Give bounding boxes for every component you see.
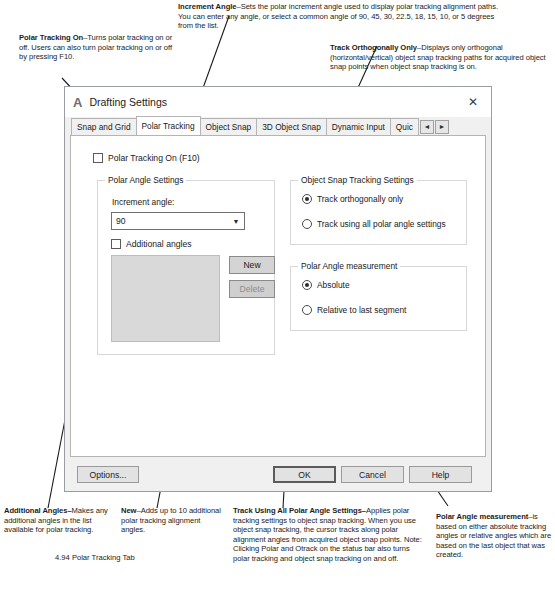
cancel-button[interactable]: Cancel bbox=[341, 466, 404, 483]
absolute-radio[interactable] bbox=[302, 280, 312, 290]
tab-object-snap[interactable]: Object Snap bbox=[200, 118, 258, 135]
annotation-polar-angle-measurement: Polar Angle measurement–is based on eith… bbox=[436, 512, 552, 560]
additional-angles-label: Additional angles bbox=[126, 239, 191, 249]
annotation-increment-angle-term: Increment Angle bbox=[178, 2, 236, 11]
drafting-settings-dialog[interactable]: A Drafting Settings ✕ Snap and Grid Pola… bbox=[64, 86, 492, 492]
dialog-titlebar[interactable]: A Drafting Settings ✕ bbox=[65, 87, 491, 117]
autocad-logo-icon: A bbox=[73, 96, 82, 109]
polar-tracking-on-label: Polar Tracking On (F10) bbox=[108, 153, 200, 163]
relative-to-last-segment-radio[interactable] bbox=[302, 305, 312, 315]
tab-scroll-left-icon[interactable]: ◄ bbox=[420, 120, 434, 134]
track-using-all-polar-angles-radio[interactable] bbox=[302, 219, 312, 229]
options-button[interactable]: Options... bbox=[77, 466, 139, 483]
delete-angle-button[interactable]: Delete bbox=[229, 280, 275, 298]
relative-to-last-segment-radio-row[interactable]: Relative to last segment bbox=[302, 305, 406, 315]
polar-angle-settings-group: Polar Angle Settings Increment angle: 90… bbox=[97, 180, 275, 355]
polar-angle-measurement-title: Polar Angle measurement bbox=[298, 261, 400, 271]
annotation-additional-angles-term: Additional Angles– bbox=[4, 506, 72, 515]
annotation-increment-angle: Increment Angle–Sets the polar increment… bbox=[178, 2, 508, 31]
annotation-polar-tracking-on: Polar Tracking On–Turns polar tracking o… bbox=[19, 33, 179, 62]
polar-angle-measurement-group: Polar Angle measurement Absolute Relativ… bbox=[290, 266, 467, 331]
help-button[interactable]: Help bbox=[409, 466, 472, 483]
annotation-new-button: New–Adds up to 10 additional polar track… bbox=[121, 506, 226, 535]
annotation-new-button-body: –Adds up to 10 additional polar tracking… bbox=[121, 506, 221, 534]
track-using-all-polar-angles-label: Track using all polar angle settings bbox=[317, 219, 446, 229]
track-using-all-polar-angles-radio-row[interactable]: Track using all polar angle settings bbox=[302, 219, 446, 229]
tab-snap-and-grid[interactable]: Snap and Grid bbox=[71, 118, 137, 135]
annotation-new-button-term: New bbox=[121, 506, 136, 515]
polar-tracking-on-checkbox[interactable] bbox=[93, 153, 103, 163]
annotation-polar-tracking-on-term: Polar Tracking On bbox=[19, 33, 83, 42]
tab-polar-tracking[interactable]: Polar Tracking bbox=[136, 116, 201, 135]
increment-angle-value: 90 bbox=[112, 216, 228, 226]
chevron-down-icon[interactable]: ▼ bbox=[228, 218, 244, 225]
increment-angle-label: Increment angle: bbox=[112, 197, 174, 207]
tab-quick-properties[interactable]: Quic bbox=[390, 118, 419, 135]
annotation-track-orthogonally-term: Track Orthogonally Only bbox=[330, 43, 417, 52]
annotation-track-orthogonally: Track Orthogonally Only–Displays only or… bbox=[330, 43, 554, 72]
figure-caption: 4.94 Polar Tracking Tab bbox=[55, 553, 135, 563]
dialog-title: Drafting Settings bbox=[89, 96, 167, 108]
new-angle-button[interactable]: New bbox=[229, 256, 275, 274]
polar-tracking-tab-page: Polar Tracking On (F10) Polar Angle Sett… bbox=[70, 135, 486, 457]
track-orthogonally-only-label: Track orthogonally only bbox=[317, 194, 403, 204]
track-orthogonally-only-radio[interactable] bbox=[302, 194, 312, 204]
close-icon[interactable]: ✕ bbox=[455, 87, 491, 117]
tab-strip[interactable]: Snap and Grid Polar Tracking Object Snap… bbox=[65, 117, 491, 135]
annotation-track-using-all: Track Using All Polar Angle Settings–App… bbox=[233, 506, 428, 564]
annotation-track-using-all-term: Track Using All Polar Angle Settings– bbox=[233, 506, 366, 515]
polar-angle-settings-title: Polar Angle Settings bbox=[105, 175, 186, 185]
tab-scroll-buttons[interactable]: ◄ ► bbox=[420, 120, 449, 134]
tab-dynamic-input[interactable]: Dynamic Input bbox=[326, 118, 391, 135]
track-orthogonally-only-radio-row[interactable]: Track orthogonally only bbox=[302, 194, 403, 204]
increment-angle-combobox[interactable]: 90 ▼ bbox=[111, 212, 245, 230]
additional-angles-checkbox-row[interactable]: Additional angles bbox=[111, 239, 191, 249]
object-snap-tracking-settings-title: Object Snap Tracking Settings bbox=[298, 175, 417, 185]
absolute-radio-row[interactable]: Absolute bbox=[302, 280, 350, 290]
ok-button[interactable]: OK bbox=[273, 466, 336, 483]
absolute-label: Absolute bbox=[317, 280, 350, 290]
annotation-polar-angle-measurement-term: Polar Angle measurement bbox=[436, 512, 528, 521]
object-snap-tracking-settings-group: Object Snap Tracking Settings Track orth… bbox=[290, 180, 467, 245]
relative-to-last-segment-label: Relative to last segment bbox=[317, 305, 406, 315]
tab-scroll-right-icon[interactable]: ► bbox=[435, 120, 449, 134]
additional-angles-checkbox[interactable] bbox=[111, 239, 121, 249]
dialog-footer: Options... OK Cancel Help bbox=[65, 457, 491, 491]
additional-angles-listbox[interactable] bbox=[111, 255, 220, 342]
polar-tracking-on-checkbox-row[interactable]: Polar Tracking On (F10) bbox=[93, 153, 200, 163]
annotation-additional-angles: Additional Angles–Makes any additional a… bbox=[4, 506, 114, 535]
tab-3d-object-snap[interactable]: 3D Object Snap bbox=[256, 118, 327, 135]
